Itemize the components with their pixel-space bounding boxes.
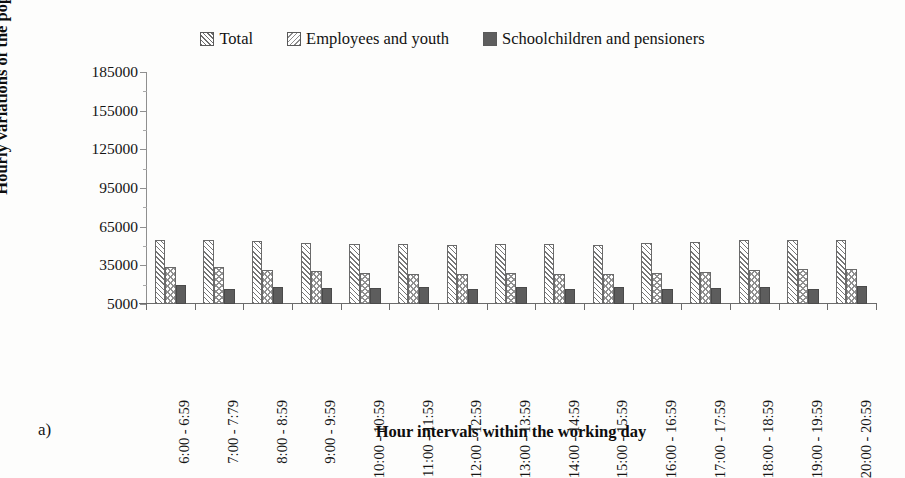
bar-group: [146, 72, 195, 304]
legend-label-schoolchildren-and-pensioners: Schoolchildren and pensioners: [502, 29, 705, 49]
bar-schoolchildren-and-pensioners: [516, 287, 527, 304]
bar-employees-and-youth: [262, 270, 273, 304]
bar-group: [195, 72, 244, 304]
bar-total: [787, 240, 798, 304]
bar-schoolchildren-and-pensioners: [273, 287, 284, 304]
bar-schoolchildren-and-pensioners: [614, 287, 625, 304]
legend-swatch-total-icon: [200, 32, 214, 46]
y-tick-label: 125000: [92, 140, 139, 158]
bar-employees-and-youth: [408, 274, 419, 304]
bar-total: [544, 244, 555, 304]
legend-item-total: Total: [200, 29, 253, 49]
bar-schoolchildren-and-pensioners: [419, 287, 430, 304]
chart-legend: Total Employees and youth Schoolchildren…: [0, 26, 905, 52]
bar-group: [535, 72, 584, 304]
y-axis-title: Hourly variations of the population: [0, 0, 12, 200]
bar-group: [243, 72, 292, 304]
bar-total: [349, 244, 360, 304]
bar-total: [398, 244, 409, 304]
bar-schoolchildren-and-pensioners: [857, 286, 868, 304]
bar-schoolchildren-and-pensioners: [468, 289, 479, 304]
y-tick-label: 155000: [92, 102, 139, 120]
bar-schoolchildren-and-pensioners: [176, 285, 187, 304]
legend-item-employees-and-youth: Employees and youth: [287, 29, 449, 49]
bar-total: [836, 240, 847, 304]
bar-total: [155, 240, 166, 304]
bar-employees-and-youth: [311, 271, 322, 304]
bar-total: [495, 244, 506, 304]
bar-total: [203, 240, 214, 304]
bar-employees-and-youth: [603, 274, 614, 304]
x-axis-tick-labels: 6:00 - 6:597:00 - 7:798:00 - 8:599:00 - …: [146, 308, 876, 404]
y-tick-label: 185000: [92, 63, 139, 81]
plot-frame: 5000350006500095000125000155000185000: [146, 72, 876, 304]
subfigure-label: a): [38, 420, 51, 440]
bar-group: [389, 72, 438, 304]
bar-total: [447, 245, 458, 304]
y-tick-label: 5000: [107, 295, 138, 313]
bar-employees-and-youth: [846, 269, 857, 304]
bar-group: [584, 72, 633, 304]
y-tick-label: 65000: [99, 218, 138, 236]
bar-group: [779, 72, 828, 304]
bar-group: [292, 72, 341, 304]
y-tick-label: 35000: [99, 256, 138, 274]
bar-group: [730, 72, 779, 304]
bar-employees-and-youth: [798, 269, 809, 304]
bar-schoolchildren-and-pensioners: [322, 288, 333, 304]
bar-group: [487, 72, 536, 304]
bar-schoolchildren-and-pensioners: [808, 289, 819, 304]
bar-employees-and-youth: [214, 267, 225, 304]
bar-total: [739, 240, 750, 304]
bar-employees-and-youth: [360, 273, 371, 304]
bar-total: [252, 241, 263, 304]
bar-employees-and-youth: [554, 274, 565, 304]
bar-group: [681, 72, 730, 304]
bar-group: [438, 72, 487, 304]
bar-group: [827, 72, 876, 304]
bar-employees-and-youth: [165, 267, 176, 304]
bar-schoolchildren-and-pensioners: [370, 288, 381, 304]
bar-total: [301, 243, 312, 304]
bar-schoolchildren-and-pensioners: [662, 289, 673, 304]
y-tick-label: 95000: [99, 179, 138, 197]
bar-groups: [146, 72, 876, 304]
legend-label-employees-and-youth: Employees and youth: [306, 29, 449, 49]
bar-employees-and-youth: [506, 273, 517, 304]
bar-group: [341, 72, 390, 304]
x-axis-title: Hour intervals within the working day: [146, 422, 876, 442]
bar-employees-and-youth: [700, 272, 711, 304]
plot-area: 5000350006500095000125000155000185000: [146, 72, 876, 304]
legend-swatch-employees-icon: [287, 32, 301, 46]
bar-total: [641, 243, 652, 304]
bar-employees-and-youth: [652, 273, 663, 304]
legend-label-total: Total: [219, 29, 253, 49]
legend-item-schoolchildren-and-pensioners: Schoolchildren and pensioners: [483, 29, 705, 49]
bar-schoolchildren-and-pensioners: [760, 287, 771, 304]
bar-employees-and-youth: [749, 270, 760, 304]
legend-swatch-schoolchildren-icon: [483, 32, 497, 46]
bar-schoolchildren-and-pensioners: [711, 288, 722, 304]
bar-schoolchildren-and-pensioners: [224, 289, 235, 304]
bar-total: [690, 242, 701, 305]
bar-schoolchildren-and-pensioners: [565, 289, 576, 304]
x-tick: [876, 303, 877, 310]
bar-total: [593, 245, 604, 304]
bar-employees-and-youth: [457, 274, 468, 304]
bar-group: [633, 72, 682, 304]
